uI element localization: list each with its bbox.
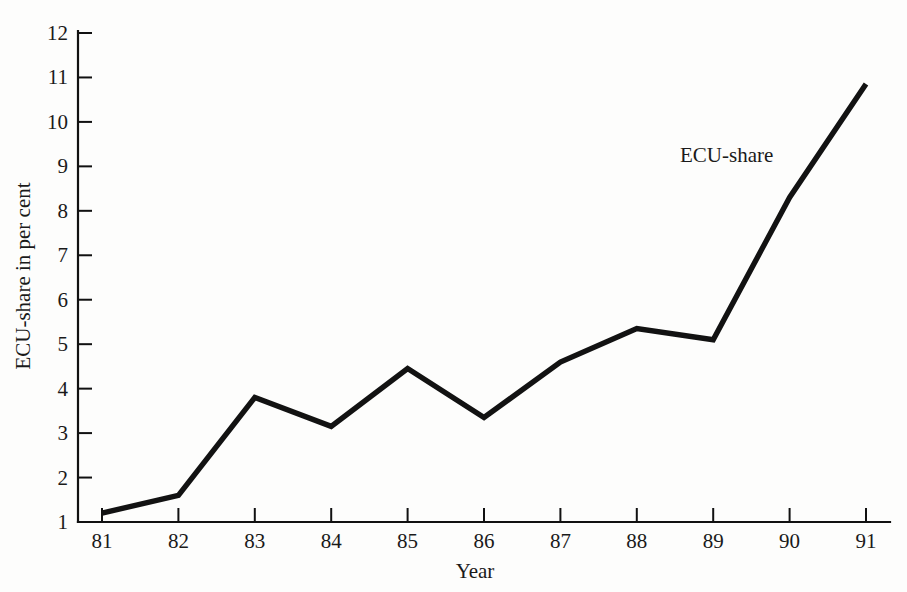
y-tick-label: 8 (58, 199, 69, 223)
y-tick-label: 10 (47, 110, 68, 134)
x-axis-tick-labels: 8182838485868788899091 (92, 529, 877, 553)
y-axis-ticks (78, 33, 92, 522)
ecu-share-annotation: ECU-share (680, 143, 773, 167)
x-tick-label: 84 (321, 529, 343, 553)
y-axis (78, 31, 92, 522)
y-tick-label: 1 (58, 510, 69, 534)
y-tick-label: 12 (47, 21, 68, 45)
x-axis-ticks (102, 508, 866, 522)
x-tick-label: 90 (779, 529, 800, 553)
y-tick-label: 11 (48, 65, 68, 89)
x-tick-label: 89 (703, 529, 724, 553)
y-tick-label: 2 (58, 466, 69, 490)
y-axis-title: ECU-share in per cent (11, 182, 35, 369)
y-tick-label: 7 (58, 243, 69, 267)
x-tick-label: 91 (856, 529, 877, 553)
line-chart: 123456789101112 8182838485868788899091 Y… (0, 0, 907, 592)
x-axis (78, 508, 890, 522)
x-axis-title: Year (456, 559, 495, 583)
x-tick-label: 85 (397, 529, 418, 553)
x-tick-label: 82 (168, 529, 189, 553)
y-tick-label: 9 (58, 154, 69, 178)
chart-container: 123456789101112 8182838485868788899091 Y… (0, 0, 907, 592)
y-axis-tick-labels: 123456789101112 (47, 21, 69, 534)
x-tick-label: 83 (244, 529, 265, 553)
x-tick-label: 88 (626, 529, 647, 553)
y-tick-label: 5 (58, 332, 69, 356)
y-tick-label: 6 (58, 288, 69, 312)
y-tick-label: 4 (58, 377, 69, 401)
x-tick-label: 81 (92, 529, 113, 553)
x-tick-label: 86 (474, 529, 495, 553)
y-tick-label: 3 (58, 421, 69, 445)
x-tick-label: 87 (550, 529, 571, 553)
